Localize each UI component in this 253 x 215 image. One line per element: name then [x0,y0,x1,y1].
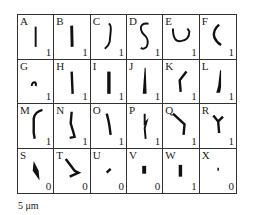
panel-t: T 0 [54,149,90,194]
panel-m: M 1 [18,104,54,149]
panel-a: A 1 [18,15,54,60]
panel-score: 1 [118,47,124,58]
panel-score: 0 [228,181,234,192]
panel-score: 0 [155,181,161,192]
panel-o: O 1 [91,104,127,149]
panel-score: 1 [228,91,234,102]
panel-h: H 1 [54,60,90,105]
panel-score: 1 [118,136,124,147]
panel-x: X 0 [200,149,236,194]
panel-u: U 0 [91,149,127,194]
panel-v: V 0 [127,149,163,194]
panel-j: J 1 [127,60,163,105]
panel-score: 1 [191,47,197,58]
panel-l: L 1 [200,60,236,105]
panel-w: W 1 [163,149,199,194]
panel-n: N 1 [54,104,90,149]
panel-c: C 1 [91,15,127,60]
panel-score: 1 [191,181,197,192]
panel-b: B 1 [54,15,90,60]
panel-score: 1 [228,136,234,147]
panel-score: 1 [155,91,161,102]
panel-score: 1 [118,91,124,102]
panel-score: 1 [82,47,88,58]
panel-score: 1 [155,136,161,147]
panel-g: G 1 [18,60,54,105]
panel-q: Q 1 [163,104,199,149]
panel-p: P 1 [127,104,163,149]
panel-s: S 0 [18,149,54,194]
panel-score: 1 [155,47,161,58]
scale-bar-label: 5 μm [18,200,39,211]
panel-r: R 1 [200,104,236,149]
panel-score: 1 [82,91,88,102]
panel-k: K 1 [163,60,199,105]
panel-score: 1 [46,91,52,102]
figure-panel-grid: A 1 B 1 C 1 D 1 E 1 F 1 G 1 H 1 I 1 [17,14,237,194]
panel-score: 0 [82,181,88,192]
panel-score: 0 [46,181,52,192]
panel-score: 1 [228,47,234,58]
panel-score: 1 [82,136,88,147]
panel-d: D 1 [127,15,163,60]
panel-score: 1 [191,91,197,102]
panel-f: F 1 [200,15,236,60]
panel-score: 1 [191,136,197,147]
panel-score: 1 [46,136,52,147]
panel-e: E 1 [163,15,199,60]
panel-i: I 1 [91,60,127,105]
panel-score: 0 [118,181,124,192]
panel-score: 1 [46,47,52,58]
